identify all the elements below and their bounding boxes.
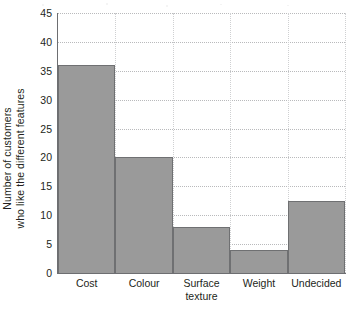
- y-tick-label-0: 0: [46, 267, 52, 279]
- bar: [288, 201, 345, 273]
- x-tick-label-0: Cost: [58, 277, 115, 302]
- y-tick-label-40: 40: [40, 36, 52, 48]
- bar: [230, 250, 287, 273]
- y-tick-label-10: 10: [40, 209, 52, 221]
- y-tick-label-15: 15: [40, 180, 52, 192]
- bar-cell-2: [173, 13, 230, 273]
- bar-cell-4: [288, 13, 345, 273]
- y-tick-label-20: 20: [40, 151, 52, 163]
- bar: [173, 227, 230, 273]
- vertical-gridline-5: [345, 13, 346, 273]
- y-tick-label-25: 25: [40, 123, 52, 135]
- x-axis-line: [57, 273, 346, 274]
- bar: [115, 157, 172, 273]
- bar: [58, 65, 115, 273]
- bar-cell-1: [115, 13, 172, 273]
- bar-series: [58, 13, 345, 273]
- y-tick-label-30: 30: [40, 94, 52, 106]
- x-tick-label-3: Weight: [230, 277, 287, 302]
- scan-noise-decoration: [0, 0, 356, 10]
- x-tick-label-4: Undecided: [288, 277, 345, 302]
- bar-chart: Number of customers who like the differe…: [0, 0, 356, 317]
- y-tick-label-45: 45: [40, 7, 52, 19]
- y-axis-title: Number of customers who like the differe…: [0, 0, 36, 317]
- x-axis-labels: CostColourSurface textureWeightUndecided: [58, 277, 345, 302]
- y-tick-label-5: 5: [46, 238, 52, 250]
- x-tick-label-2: Surface texture: [173, 277, 230, 302]
- y-tick-label-35: 35: [40, 65, 52, 77]
- x-tick-label-1: Colour: [115, 277, 172, 302]
- bar-cell-3: [230, 13, 287, 273]
- bar-cell-0: [58, 13, 115, 273]
- y-axis-title-line-2: who like the different features: [14, 88, 27, 228]
- y-axis-title-line-1: Number of customers: [1, 88, 14, 228]
- plot-area: 051015202530354045: [58, 13, 345, 273]
